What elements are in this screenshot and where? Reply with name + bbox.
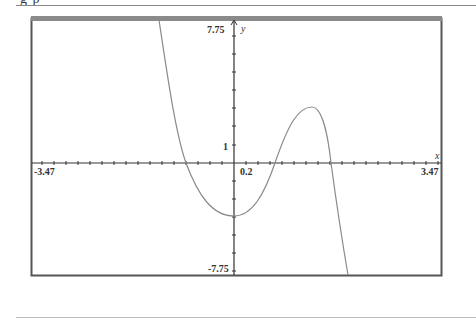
x-max-label: 3.47 [421, 166, 439, 177]
y-min-label: -7.75 [208, 263, 229, 274]
y-max-label: 7.75 [207, 24, 225, 35]
graph-plot [0, 0, 476, 323]
y-axis-name: y [241, 23, 245, 34]
graph-frame [32, 19, 442, 276]
x-min-label: -3.47 [34, 166, 55, 177]
bottom-divider [16, 317, 476, 318]
x-tick-label: 0.2 [240, 166, 253, 177]
graph-frame-top-band [31, 16, 442, 21]
x-axis-name: x [435, 150, 439, 161]
y-tick-label: 1 [223, 141, 228, 152]
